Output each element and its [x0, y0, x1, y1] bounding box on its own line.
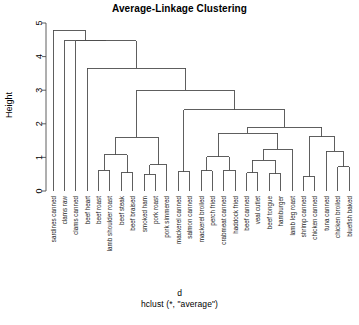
dendrogram-canvas: 012345 sardines cannedclams rawclams can… [0, 0, 359, 325]
leaf-label: chicken canned [311, 196, 318, 240]
leaf-label: mackerel broiled [198, 196, 205, 243]
svg-text:4: 4 [34, 54, 44, 59]
x-axis-caption-line2: hclust (*, "average") [0, 299, 359, 310]
leaf-label: hamburger [277, 196, 285, 226]
leaf-label: beef heart [84, 196, 91, 225]
svg-text:2: 2 [34, 121, 44, 126]
svg-text:1: 1 [34, 155, 44, 160]
leaf-label: salmon canned [186, 196, 193, 239]
leaf-label: perch fried [209, 196, 217, 226]
leaf-label: pork simmered [163, 196, 171, 238]
leaf-label: veal cutlet [254, 196, 261, 225]
leaf-label: beef steak [118, 195, 125, 225]
svg-text:3: 3 [34, 88, 44, 93]
leaf-labels: sardines cannedclams rawclams cannedbeef… [50, 195, 353, 251]
leaf-label: chicken broiled [334, 196, 341, 239]
leaf-label: beef braised [129, 196, 136, 231]
leaf-label: bluefish baked [346, 196, 353, 237]
leaf-label: smoked ham [141, 196, 148, 232]
dendrogram-tree [53, 30, 349, 191]
leaf-label: sardines canned [50, 196, 57, 243]
leaf-label: tuna canned [323, 196, 330, 231]
leaf-label: beef tongue [266, 196, 274, 230]
leaf-label: pork roast [152, 196, 160, 224]
leaf-label: clams raw [61, 196, 68, 225]
dendrogram-plot: Average-Linkage Clustering Height 012345… [0, 0, 359, 325]
leaf-label: shrimp canned [300, 196, 308, 238]
leaf-label: haddock fried [232, 196, 239, 234]
leaf-label: clams canned [72, 196, 79, 235]
svg-text:0: 0 [34, 188, 44, 193]
svg-text:5: 5 [34, 20, 44, 25]
leaf-label: beef roast [95, 196, 102, 224]
leaf-label: beef canned [243, 196, 250, 231]
leaf-label: lamb leg roast [289, 196, 297, 236]
leaf-label: mackerel canned [175, 196, 182, 244]
leaf-label: crabmeat canned [220, 196, 227, 245]
y-axis: 012345 [34, 20, 46, 193]
x-axis-caption-line1: d [0, 288, 359, 299]
leaf-label: lamb shoulder roast [106, 196, 113, 252]
x-axis-caption: d hclust (*, "average") [0, 288, 359, 310]
